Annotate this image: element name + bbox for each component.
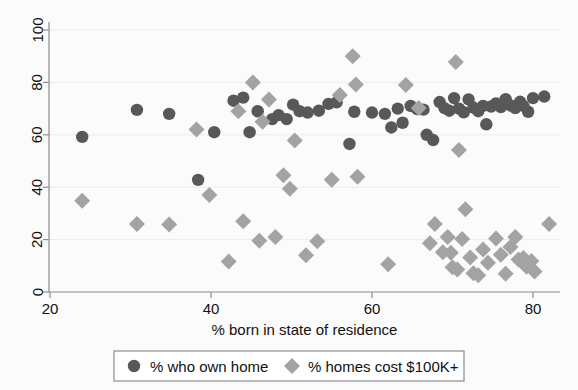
data-point-circle (379, 108, 391, 120)
scatter-plot-figure: 02040608010020406080% born in state of r… (0, 0, 578, 390)
legend: % who own home% homes cost $100K+ (114, 351, 464, 381)
data-point-circle (538, 90, 550, 102)
data-point-diamond (498, 266, 514, 282)
data-point-diamond (251, 233, 267, 249)
data-point-diamond (480, 255, 496, 271)
data-point-diamond (451, 142, 467, 158)
series-own-home (76, 90, 550, 186)
data-point-diamond (282, 181, 298, 197)
data-point-diamond (454, 231, 470, 247)
data-point-circle (385, 121, 397, 133)
data-point-diamond (267, 229, 283, 245)
data-point-circle (348, 106, 360, 118)
y-tick-label-60: 60 (29, 126, 46, 143)
data-point-diamond (221, 254, 237, 270)
data-point-diamond (161, 216, 177, 232)
data-point-diamond (475, 242, 491, 258)
y-tick-label-40: 40 (29, 179, 46, 196)
x-tick-label-80: 80 (525, 300, 542, 317)
data-point-diamond (457, 201, 473, 217)
data-point-circle (301, 106, 313, 118)
data-point-diamond (380, 256, 396, 272)
data-point-diamond (427, 216, 443, 232)
data-point-circle (527, 92, 539, 104)
data-point-diamond (345, 48, 361, 64)
y-tick-label-20: 20 (29, 231, 46, 248)
data-point-diamond (298, 247, 314, 263)
x-tick-label-60: 60 (364, 300, 381, 317)
legend-label-homes-100k: % homes cost $100K+ (308, 358, 459, 375)
data-point-circle (192, 174, 204, 186)
data-point-circle (396, 117, 408, 129)
data-point-circle (131, 104, 143, 116)
data-point-diamond (309, 233, 325, 249)
data-point-circle (427, 134, 439, 146)
legend-label-own-home: % who own home (150, 358, 268, 375)
data-point-diamond (245, 74, 261, 90)
data-point-diamond (440, 229, 456, 245)
data-point-diamond (348, 76, 364, 92)
data-point-circle (163, 108, 175, 120)
data-point-diamond (275, 167, 291, 183)
data-point-diamond (488, 231, 504, 247)
data-point-circle (237, 91, 249, 103)
chart-canvas: 02040608010020406080% born in state of r… (0, 0, 578, 390)
data-point-diamond (541, 216, 557, 232)
data-point-circle (208, 126, 220, 138)
x-tick-label-40: 40 (203, 300, 220, 317)
gridlines (49, 30, 560, 240)
data-point-diamond (201, 187, 217, 203)
data-point-circle (76, 131, 88, 143)
y-tick-label-100: 100 (29, 17, 46, 42)
data-point-diamond (398, 77, 414, 93)
data-point-diamond (324, 172, 340, 188)
data-point-diamond (235, 213, 251, 229)
data-point-diamond (422, 235, 438, 251)
data-point-circle (280, 113, 292, 125)
data-point-diamond (462, 249, 478, 265)
data-point-diamond (129, 216, 145, 232)
data-point-circle (392, 102, 404, 114)
data-point-diamond (448, 54, 464, 70)
y-tick-label-0: 0 (29, 288, 46, 296)
data-point-circle (366, 106, 378, 118)
data-point-diamond (350, 169, 366, 185)
y-tick-label-80: 80 (29, 74, 46, 91)
data-point-circle (480, 118, 492, 130)
legend-circle-marker (128, 360, 140, 372)
x-tick-label-20: 20 (42, 300, 59, 317)
data-point-diamond (261, 91, 277, 107)
data-point-diamond (74, 193, 90, 209)
data-point-circle (243, 126, 255, 138)
series-homes-100k (74, 48, 557, 283)
data-point-circle (343, 138, 355, 150)
data-point-circle (522, 106, 534, 118)
x-axis-title: % born in state of residence (212, 321, 398, 338)
